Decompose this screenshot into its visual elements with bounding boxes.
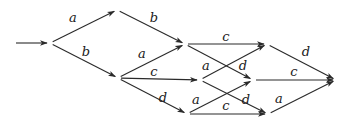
edge-n4-n6	[203, 45, 265, 78]
edge-label: a	[202, 58, 210, 73]
edge-label: a	[69, 10, 77, 25]
edge-label: d	[302, 44, 310, 59]
transition-diagram: abbacdcdadacdca	[0, 0, 346, 124]
edge-n0-n1	[53, 11, 115, 41]
edge-label: d	[242, 92, 250, 107]
labels-layer: abbacdcdadacdca	[69, 10, 310, 113]
edge-label: c	[290, 64, 298, 79]
edge-line	[203, 81, 266, 112]
edge-label: a	[275, 91, 283, 106]
edge-label: c	[222, 98, 230, 113]
edge-n2-n5	[121, 79, 185, 112]
edge-line	[121, 79, 185, 112]
edge-n2-n4	[121, 78, 197, 80]
edge-label: b	[150, 10, 158, 25]
edge-label: d	[159, 90, 167, 105]
edge-label: b	[82, 44, 90, 59]
edge-label: c	[222, 29, 230, 44]
edge-label: c	[150, 64, 158, 79]
edge-label: a	[138, 46, 146, 61]
edge-line	[121, 78, 197, 80]
edge-n4-n8	[203, 81, 266, 112]
edge-line	[203, 45, 265, 78]
edge-label: a	[192, 92, 200, 107]
edge-line	[53, 11, 115, 41]
edge-label: d	[239, 58, 247, 73]
